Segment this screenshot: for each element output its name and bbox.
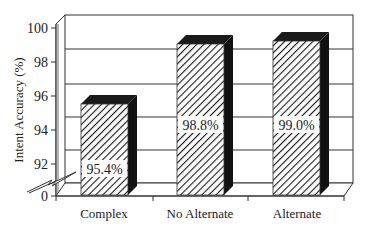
- y-tick-96: 96: [34, 89, 48, 104]
- x-label-alternate: Alternate: [273, 206, 322, 221]
- value-label-complex: 95.4%: [86, 162, 123, 177]
- bar-complex: 95.4%: [81, 95, 137, 195]
- y-tick-0: 0: [41, 189, 48, 204]
- y-axis-label: Intent Accuracy (%): [11, 57, 26, 162]
- value-label-alternate: 99.0%: [278, 118, 315, 133]
- value-label-no-alternate: 98.8%: [182, 118, 219, 133]
- y-axis: 100 98 96 94 92 0: [27, 21, 56, 204]
- y-tick-98: 98: [34, 55, 48, 70]
- x-axis: Complex No Alternate Alternate: [56, 196, 344, 221]
- y-tick-92: 92: [34, 157, 48, 172]
- x-label-complex: Complex: [80, 206, 128, 221]
- y-tick-100: 100: [27, 21, 48, 36]
- bar-no-alternate: 98.8%: [177, 35, 233, 195]
- y-tick-94: 94: [34, 123, 48, 138]
- x-label-no-alternate: No Alternate: [167, 206, 234, 221]
- bar-chart: 100 98 96 94 92 0 Intent Accuracy (%) 95…: [0, 0, 366, 231]
- bar-alternate: 99.0%: [273, 32, 329, 195]
- plot-side-wall: [56, 15, 65, 196]
